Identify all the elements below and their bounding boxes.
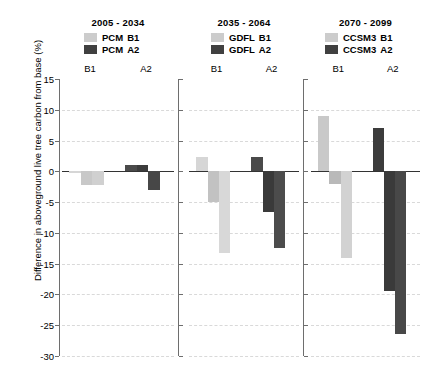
panel-header: 2035 - 2064GDFLB1GDFLA2	[189, 17, 299, 55]
legend-swatch-icon	[325, 45, 338, 54]
legend-model-name: CCSM3	[343, 32, 376, 43]
bar	[329, 171, 340, 183]
bar	[69, 171, 81, 172]
legend-scenario-name: A2	[259, 44, 271, 55]
bar	[395, 171, 406, 334]
bar	[81, 171, 93, 185]
legend-scenario-name: A2	[127, 44, 139, 55]
bar	[92, 171, 104, 185]
panel-separator-tick	[179, 294, 183, 295]
legend-scenario-name: B1	[127, 32, 139, 43]
y-axis-tick-mark	[55, 264, 59, 265]
panel-separator-tick	[304, 356, 308, 357]
legend-scenario-name: B1	[259, 32, 271, 43]
bar	[373, 128, 384, 171]
y-axis-tick-label: -10	[20, 227, 54, 238]
legend-label: GDFLB1	[229, 32, 271, 43]
grid-line	[189, 356, 299, 357]
y-axis-spine	[59, 79, 60, 356]
chart-panel: B1A2	[311, 79, 420, 356]
panel-separator-tick	[304, 202, 308, 203]
legend-model-name: GDFL	[229, 44, 255, 55]
panel-legend: CCSM3B1CCSM3A2	[311, 31, 420, 55]
panel-header: 2070 - 2099CCSM3B1CCSM3A2	[311, 17, 420, 55]
panel-separator-tick	[304, 141, 308, 142]
y-axis-tick-mark	[55, 110, 59, 111]
panel-separator-axis	[178, 79, 179, 356]
panel-header: 2005 - 2034PCMB1PCMA2	[62, 17, 174, 55]
panel-separator-tick	[304, 171, 308, 172]
y-axis-tick-label: 5	[20, 135, 54, 146]
panel-separator-tick	[179, 202, 183, 203]
panel-legend: PCMB1PCMA2	[62, 31, 174, 55]
y-axis-tick-label: 10	[20, 104, 54, 115]
bar	[384, 171, 395, 291]
bar	[196, 157, 207, 172]
y-axis-tick-mark	[55, 356, 59, 357]
panel-separator-tick	[304, 110, 308, 111]
legend-label: PCMA2	[102, 44, 139, 55]
bar	[251, 157, 262, 172]
panel-title: 2070 - 2099	[311, 17, 420, 28]
y-axis-tick-mark	[55, 202, 59, 203]
group-label-a2: A2	[387, 63, 399, 74]
legend-model-name: CCSM3	[343, 44, 376, 55]
y-axis-tick-label: -25	[20, 320, 54, 331]
legend-swatch-icon	[211, 33, 224, 42]
panel-separator-tick	[179, 141, 183, 142]
legend-swatch-icon	[84, 33, 97, 42]
bar	[263, 171, 274, 212]
y-axis-tick-mark	[55, 325, 59, 326]
y-axis-tick-mark	[55, 141, 59, 142]
legend-swatch-icon	[325, 33, 338, 42]
legend-item[interactable]: PCMB1	[62, 31, 174, 43]
legend-label: PCMB1	[102, 32, 139, 43]
chart-figure: Difference in aboveground live tree carb…	[0, 0, 421, 388]
y-axis-tick-label: -20	[20, 289, 54, 300]
y-axis-tick-label: 15	[20, 74, 54, 85]
bar	[219, 171, 230, 252]
y-axis-tick-label: -15	[20, 258, 54, 269]
group-label-b1: B1	[211, 63, 223, 74]
y-axis-tick-label: -30	[20, 351, 54, 362]
legend-label: CCSM3A2	[343, 44, 392, 55]
bar	[208, 171, 219, 202]
panel-title: 2035 - 2064	[189, 17, 299, 28]
legend-item[interactable]: GDFLB1	[189, 31, 299, 43]
legend-model-name: GDFL	[229, 32, 255, 43]
y-axis-tick-mark	[55, 79, 59, 80]
legend-item[interactable]: CCSM3B1	[311, 31, 420, 43]
chart-panel: B1A2	[62, 79, 174, 356]
panel-separator-tick	[179, 356, 183, 357]
legend-model-name: PCM	[102, 32, 123, 43]
y-axis-tick-label: 0	[20, 166, 54, 177]
y-axis-tick-label: -5	[20, 197, 54, 208]
legend-swatch-icon	[84, 45, 97, 54]
panel-separator-tick	[179, 110, 183, 111]
legend-item[interactable]: GDFLA2	[189, 43, 299, 55]
panel-separator-tick	[304, 294, 308, 295]
panel-separator-tick	[304, 325, 308, 326]
legend-item[interactable]: PCMA2	[62, 43, 174, 55]
panel-separator-tick	[179, 264, 183, 265]
panel-legend: GDFLB1GDFLA2	[189, 31, 299, 55]
panel-separator-tick	[179, 233, 183, 234]
group-label-a2: A2	[140, 63, 152, 74]
chart-panel: B1A2	[189, 79, 299, 356]
panel-title: 2005 - 2034	[62, 17, 174, 28]
group-label-b1: B1	[332, 63, 344, 74]
y-axis-tick-mark	[55, 171, 59, 172]
y-axis-tick-mark	[55, 233, 59, 234]
panel-separator-tick	[179, 79, 183, 80]
group-label-a2: A2	[266, 63, 278, 74]
panel-separator-tick	[179, 325, 183, 326]
y-axis-tick-mark	[55, 294, 59, 295]
bar	[125, 165, 137, 171]
legend-label: GDFLA2	[229, 44, 271, 55]
legend-item[interactable]: CCSM3A2	[311, 43, 420, 55]
bar	[318, 116, 329, 171]
panel-separator-tick	[304, 264, 308, 265]
legend-swatch-icon	[211, 45, 224, 54]
panel-separator-axis	[303, 79, 304, 356]
group-label-b1: B1	[84, 63, 96, 74]
